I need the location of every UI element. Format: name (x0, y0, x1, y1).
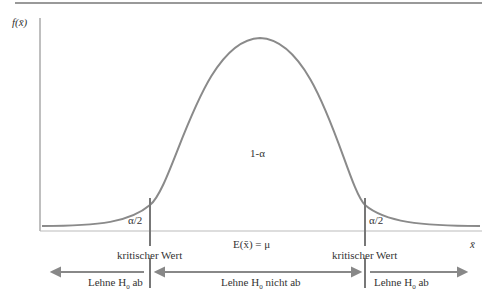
y-axis-label: f(x̄) (12, 16, 27, 28)
normal-curve (42, 38, 480, 226)
tail-label-left: α/2 (128, 214, 142, 226)
tail-label-right: α/2 (369, 214, 383, 226)
x-axis-label: x̄ (470, 238, 475, 250)
region-right-label: Lehne H0 ab (374, 276, 429, 291)
arrow-center-region (156, 268, 360, 276)
mean-label: E(x̄) = μ (233, 238, 270, 250)
region-center-label: Lehne H0 nicht ab (221, 276, 301, 291)
arrow-right-region (370, 268, 466, 276)
critical-value-right: kritischer Wert (332, 249, 397, 261)
center-region-label: 1-α (250, 147, 265, 159)
region-left-label: Lehne H0 ab (88, 276, 143, 291)
diagram-canvas (0, 0, 493, 306)
critical-value-left: kritischer Wert (117, 249, 182, 261)
arrow-left-region (52, 268, 144, 276)
